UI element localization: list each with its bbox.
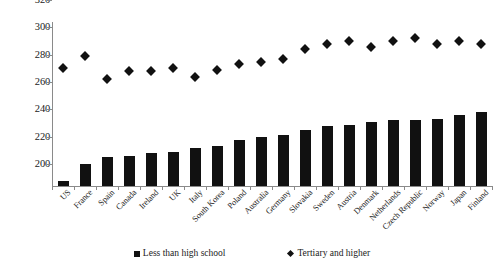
data-point-diamond xyxy=(58,64,68,74)
legend-label-tertiary-and-higher: Tertiary and higher xyxy=(297,248,370,259)
x-axis-label: Norway xyxy=(421,188,446,213)
x-axis-labels: USFranceSpainCanadaIrelandUKItalySouth K… xyxy=(52,188,492,246)
y-tick-label: 320 xyxy=(20,0,50,5)
scatter-series-tertiary-and-higher xyxy=(52,22,492,186)
data-point-diamond xyxy=(234,59,244,69)
y-tick-label: 240 xyxy=(20,104,50,114)
legend-item-less-than-high-school: Less than high school xyxy=(134,248,226,259)
diamond-marker-icon xyxy=(287,250,294,257)
y-tick-label: 280 xyxy=(20,50,50,60)
x-axis-label: France xyxy=(72,188,94,210)
data-point-diamond xyxy=(366,42,376,52)
x-axis-label: UK xyxy=(167,188,182,203)
data-point-diamond xyxy=(278,54,288,64)
data-point-diamond xyxy=(80,51,90,61)
y-tick-label: 260 xyxy=(20,77,50,87)
x-axis-label: US xyxy=(58,188,72,202)
data-point-diamond xyxy=(432,39,442,49)
legend-item-tertiary-and-higher: Tertiary and higher xyxy=(287,248,370,259)
data-point-diamond xyxy=(146,66,156,76)
data-point-diamond xyxy=(124,66,134,76)
x-axis-label: Ireland xyxy=(137,188,160,211)
data-point-diamond xyxy=(322,39,332,49)
data-point-diamond xyxy=(300,44,310,54)
y-tick-label: 300 xyxy=(20,22,50,32)
data-point-diamond xyxy=(102,74,112,84)
y-axis-ticks: 200220240260280300320 xyxy=(0,0,50,164)
data-point-diamond xyxy=(212,65,222,75)
y-tick-label: 200 xyxy=(20,159,50,169)
x-axis-label: Slovakia xyxy=(288,188,315,215)
data-point-diamond xyxy=(256,57,266,67)
square-marker-icon xyxy=(134,251,140,257)
data-point-diamond xyxy=(388,36,398,46)
data-point-diamond xyxy=(476,39,486,49)
data-point-diamond xyxy=(168,64,178,74)
data-point-diamond xyxy=(454,36,464,46)
x-tick-mark xyxy=(492,186,493,190)
x-axis-label: Italy xyxy=(187,188,204,205)
legend-label-less-than-high-school: Less than high school xyxy=(143,248,226,259)
data-point-diamond xyxy=(344,36,354,46)
data-point-diamond xyxy=(190,72,200,82)
data-point-diamond xyxy=(410,33,420,43)
x-axis-label: Finland xyxy=(466,188,490,212)
y-tick-label: 220 xyxy=(20,132,50,142)
x-axis-label: Canada xyxy=(114,188,138,212)
chart-container: 200220240260280300320 USFranceSpainCanad… xyxy=(0,0,504,278)
chart-legend: Less than high school Tertiary and highe… xyxy=(0,248,504,259)
y-tick-mark xyxy=(47,0,52,1)
x-axis-label: Sweden xyxy=(311,188,336,213)
